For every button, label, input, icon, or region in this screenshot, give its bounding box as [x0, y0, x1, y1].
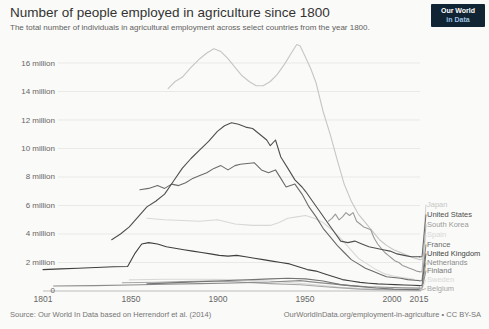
- legend-item-finland: Finland: [427, 266, 452, 275]
- y-tick-16m: 16 million: [0, 59, 55, 69]
- x-tick-2015: 2015: [402, 294, 436, 304]
- owid-url-link[interactable]: OurWorldInData.org/employment-in-agricul…: [284, 310, 440, 319]
- legend-item-united-states: United States: [427, 210, 472, 219]
- x-tick-1850: 1850: [114, 294, 148, 304]
- chart-subtitle: The total number of individuals in agric…: [10, 23, 370, 32]
- legend-item-sweden: Sweden: [427, 275, 454, 284]
- y-tick-12m: 12 million: [0, 116, 55, 126]
- legend-item-united-kingdom: United Kingdom: [427, 249, 480, 258]
- y-tick-14m: 14 million: [0, 87, 55, 97]
- owid-logo-line1: Our World: [441, 7, 475, 15]
- chart-canvas: [0, 0, 489, 329]
- license-text: • CC BY-SA: [439, 310, 481, 319]
- owid-logo-line2: in Data: [446, 16, 469, 24]
- owid-logo[interactable]: Our World in Data: [431, 4, 485, 27]
- chart-title: Number of people employed in agriculture…: [10, 5, 330, 20]
- footer-credit: OurWorldInData.org/employment-in-agricul…: [284, 310, 481, 319]
- legend-item-spain: Spain: [427, 230, 446, 239]
- legend-item-belgium: Belgium: [427, 284, 454, 293]
- legend-item-south-korea: South Korea: [427, 220, 469, 229]
- y-tick-2m: 2 million: [0, 258, 55, 268]
- legend-item-france: France: [427, 240, 450, 249]
- x-tick-1900: 1900: [201, 294, 235, 304]
- x-tick-1801: 1801: [26, 294, 60, 304]
- y-tick-6m: 6 million: [0, 201, 55, 211]
- y-tick-4m: 4 million: [0, 229, 55, 239]
- legend-item-japan: Japan: [427, 200, 447, 209]
- y-tick-8m: 8 million: [0, 172, 55, 182]
- source-note: Source: Our World In Data based on Herre…: [10, 310, 211, 319]
- y-tick-10m: 10 million: [0, 144, 55, 154]
- x-tick-1950: 1950: [288, 294, 322, 304]
